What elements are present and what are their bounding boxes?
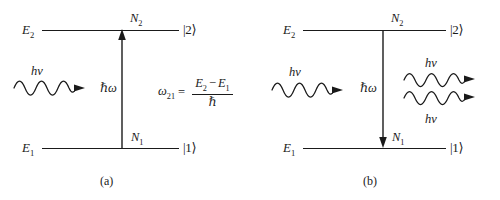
energy-level-figure: E2 E1 N2 N1 |2⟩ |1⟩ ℏω hν — [0, 0, 500, 200]
incoming-photon-label-a: hν — [31, 65, 43, 78]
equation-relation: = — [178, 86, 185, 99]
panel-caption-b: (b) — [363, 175, 377, 187]
outgoing-photon-label-bottom-b: hν — [425, 113, 437, 126]
panel-a-stimulated-absorption: E2 E1 N2 N1 |2⟩ |1⟩ ℏω hν — [0, 0, 250, 200]
equation-denominator: ℏ — [208, 95, 216, 109]
outgoing-photon-wave-bottom-b — [250, 0, 500, 200]
transition-frequency-equation-a: ω21 = E2−E1 ℏ — [158, 77, 233, 108]
equation-numerator: E2−E1 — [192, 77, 233, 95]
equation-fraction: E2−E1 ℏ — [192, 77, 233, 108]
panel-caption-a: (a) — [100, 175, 113, 187]
equation-lhs: ω21 — [158, 85, 175, 101]
outgoing-photon-label-top-b: hν — [425, 57, 437, 70]
panel-b-stimulated-emission: E2 E1 N2 N1 |2⟩ |1⟩ ℏω hν — [250, 0, 500, 200]
